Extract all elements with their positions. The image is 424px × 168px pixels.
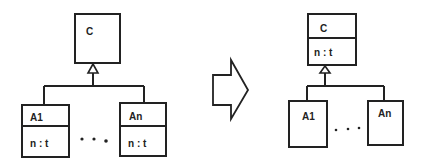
before-diagram [22, 14, 166, 157]
before-class-a1-attribute: n : t [30, 138, 49, 149]
after-class-c-name: C [320, 23, 327, 34]
before-class-a1-name: A1 [30, 112, 43, 123]
before-class-c-name: C [86, 26, 93, 37]
pull-up-attribute-diagram: C A1 n : t An n : t C n : t A1 An [0, 0, 424, 168]
generalization-triangle-icon [88, 64, 98, 73]
before-class-an-attribute: n : t [128, 138, 147, 149]
after-class-a1-name: A1 [302, 111, 315, 122]
after-class-a1 [289, 101, 327, 147]
after-class-an-name: An [378, 108, 391, 119]
after-diagram [289, 14, 403, 147]
generalization-triangle-icon [320, 66, 330, 73]
after-class-c-attribute: n : t [314, 47, 333, 58]
before-class-an-name: An [129, 111, 142, 122]
block-arrow-right-icon [213, 60, 248, 119]
before-class-c [75, 14, 120, 63]
before-ellipsis [80, 137, 107, 142]
after-ellipsis [335, 127, 361, 132]
